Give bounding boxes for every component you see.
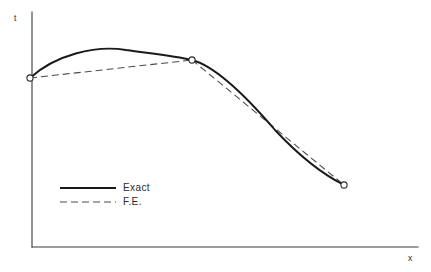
legend-label-fe: F.E. [123,197,142,207]
node-marker-2 [189,57,195,63]
figure-canvas: t x Exact F.E. [0,0,431,272]
y-axis-label: t [14,14,17,23]
x-axis-label: x [408,254,412,263]
exact-curve [30,49,344,185]
node-marker-3 [341,182,347,188]
fe-segment-1 [30,60,192,78]
legend-label-exact: Exact [123,183,150,193]
plot-area [0,0,431,272]
node-marker-1 [27,75,33,81]
